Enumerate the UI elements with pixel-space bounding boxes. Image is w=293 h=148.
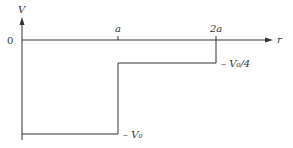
- potential-diagram: V r 0 a 2a – V₀ – V₀/4: [0, 0, 293, 148]
- origin-label: 0: [7, 35, 13, 46]
- potential-curve: [22, 40, 216, 134]
- r-axis-arrow-icon: [265, 38, 273, 43]
- tick-a-label: a: [115, 23, 121, 34]
- r-axis-label: r: [277, 34, 283, 45]
- v-axis-arrow-icon: [20, 17, 25, 25]
- v-axis-label: V: [18, 4, 27, 15]
- level-minus-v0-quarter-label: – V₀/4: [221, 58, 250, 69]
- tick-2a-label: 2a: [209, 23, 222, 34]
- level-minus-v0-label: – V₀: [123, 129, 142, 140]
